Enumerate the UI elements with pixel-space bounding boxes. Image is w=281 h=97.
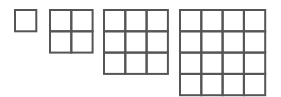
grid-cell <box>180 10 201 31</box>
grid-cell <box>71 10 92 31</box>
grid-cell <box>201 74 222 95</box>
grid-cell <box>180 74 201 95</box>
grid-cell <box>201 53 222 74</box>
grid-cell <box>104 10 125 31</box>
grid-cell <box>223 10 244 31</box>
grid-cell <box>125 10 146 31</box>
grid-2x2 <box>50 10 93 53</box>
grid-cell <box>104 31 125 52</box>
grid-cell <box>104 53 125 74</box>
grid-diagram <box>0 0 281 97</box>
grid-cell <box>201 10 222 31</box>
grid-cell <box>50 10 71 31</box>
grid-cell <box>50 31 71 52</box>
grid-cell <box>147 10 168 31</box>
grid-cell <box>201 31 222 52</box>
grid-cell <box>223 74 244 95</box>
grid-cell <box>125 31 146 52</box>
grid-cell <box>223 53 244 74</box>
grid-cell <box>244 74 265 95</box>
grid-cell <box>223 31 244 52</box>
grid-cell <box>244 53 265 74</box>
grid-cell <box>180 31 201 52</box>
grid-cell <box>244 31 265 52</box>
grid-4x4 <box>180 10 265 95</box>
grid-cell <box>180 53 201 74</box>
grid-cell <box>147 31 168 52</box>
grid-1x1 <box>15 10 36 31</box>
grid-cell <box>71 31 92 52</box>
grid-cell <box>244 10 265 31</box>
grid-cell <box>147 53 168 74</box>
grid-cell <box>15 10 36 31</box>
grid-cell <box>125 53 146 74</box>
grid-3x3 <box>104 10 168 74</box>
